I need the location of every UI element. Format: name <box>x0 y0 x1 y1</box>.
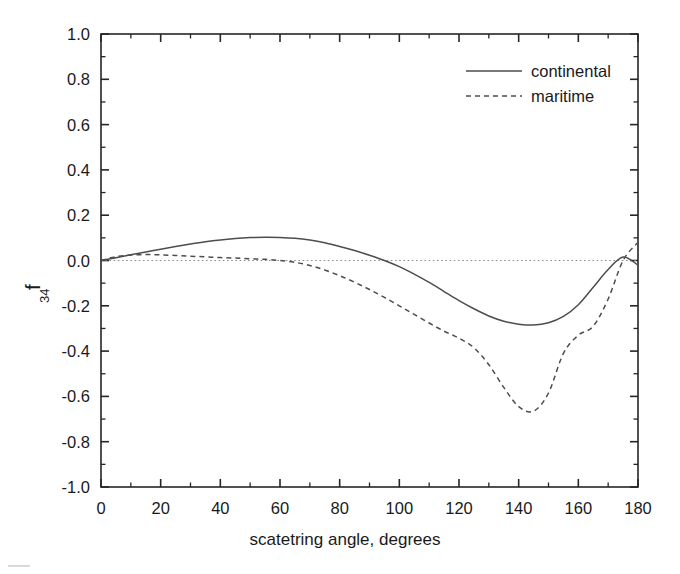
chart-plot-area: -1.0-0.8-0.6-0.4-0.20.00.20.40.60.81.0 0… <box>0 0 680 574</box>
x-tick-label: 180 <box>624 499 652 517</box>
y-tick-label: -0.4 <box>62 342 90 360</box>
y-axis-title-subscript: 34 <box>37 289 52 303</box>
x-tick-label: 60 <box>271 499 289 517</box>
y-tick-label: -0.8 <box>62 433 90 451</box>
x-tick-label: 120 <box>445 499 473 517</box>
y-tick-label: -1.0 <box>62 478 90 496</box>
y-tick-label: 0.8 <box>67 70 90 88</box>
x-tick-label: 100 <box>386 499 414 517</box>
y-tick-label: 0.0 <box>67 252 90 270</box>
y-tick-label: 1.0 <box>67 25 90 43</box>
x-tick-label: 20 <box>151 499 169 517</box>
y-tick-label: 0.4 <box>67 161 90 179</box>
x-axis-title: scatetring angle, degrees <box>250 530 441 549</box>
legend-label-maritime: maritime <box>531 87 594 105</box>
x-tick-label: 80 <box>330 499 348 517</box>
x-tick-label: 0 <box>96 499 105 517</box>
y-tick-label: -0.2 <box>62 297 90 315</box>
x-tick-label: 140 <box>505 499 533 517</box>
x-tick-label: 160 <box>565 499 593 517</box>
x-tick-label: 40 <box>211 499 229 517</box>
y-tick-label: -0.6 <box>62 387 90 405</box>
y-tick-label: 0.6 <box>67 116 90 134</box>
y-tick-label: 0.2 <box>67 206 90 224</box>
legend-label-continental: continental <box>531 62 611 80</box>
chart-figure: -1.0-0.8-0.6-0.4-0.20.00.20.40.60.81.0 0… <box>0 0 680 574</box>
